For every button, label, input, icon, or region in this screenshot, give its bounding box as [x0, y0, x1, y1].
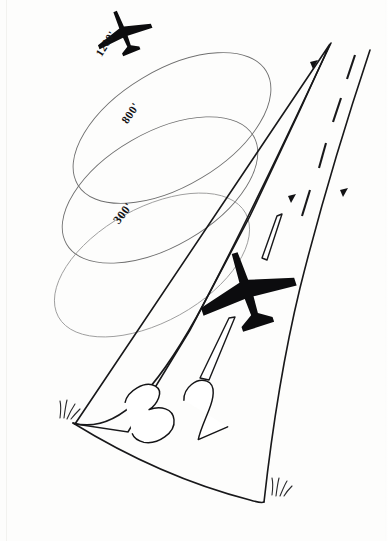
diagram-canvas: 1200' 800' 300': [0, 0, 388, 541]
scenery-layer: [0, 0, 388, 541]
grass-tuft-right: [272, 478, 292, 496]
grass-tuft-left: [60, 400, 80, 419]
